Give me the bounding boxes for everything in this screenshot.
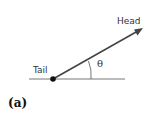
vector-diagram: Head Tail θ (a): [0, 0, 151, 119]
figure-caption: (a): [8, 97, 27, 109]
arrowhead-icon: [134, 28, 143, 36]
tail-dot-icon: [50, 76, 56, 82]
angle-arc: [89, 61, 92, 79]
tail-label: Tail: [33, 66, 48, 75]
head-label: Head: [117, 17, 141, 26]
angle-label: θ: [97, 59, 103, 69]
vector-shaft: [53, 32, 137, 80]
